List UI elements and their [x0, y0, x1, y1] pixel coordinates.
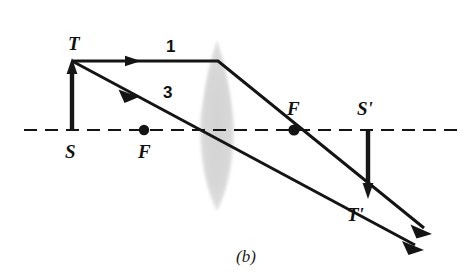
label-focal-right-F: F: [286, 98, 300, 119]
ray-1-arrowhead-incident: [125, 56, 141, 66]
label-ray-3: 3: [163, 83, 172, 102]
ray-1-path: [72, 56, 432, 239]
focal-point-left-dot: [139, 125, 149, 135]
image-arrow: [363, 130, 374, 199]
object-arrow: [67, 58, 78, 130]
focal-point-right-dot: [288, 124, 299, 135]
lens-body: [200, 40, 234, 211]
label-ray-1: 1: [166, 37, 175, 56]
label-image-base-S-prime: S': [357, 98, 373, 119]
label-image-tip-T-prime: T': [347, 204, 364, 225]
figure-container: T S F F S' T' 1 3 (b): [0, 0, 473, 272]
ray-diagram: T S F F S' T' 1 3 (b): [0, 0, 473, 272]
converging-lens: [200, 40, 234, 211]
panel-caption: (b): [236, 247, 256, 266]
label-object-tip-T: T: [68, 33, 81, 54]
label-focal-left-F: F: [137, 141, 151, 162]
ray-3-path: [72, 61, 424, 255]
label-object-base-S: S: [65, 141, 76, 162]
